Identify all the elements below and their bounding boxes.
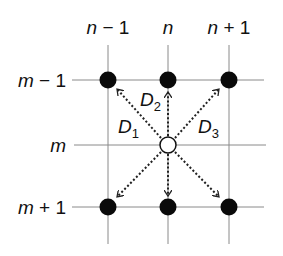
node-filled bbox=[100, 72, 117, 89]
row-label-m-minus-1: m − 1 bbox=[18, 70, 66, 91]
arrow-down-left bbox=[117, 152, 161, 197]
col-label-n-plus-1: n + 1 bbox=[208, 17, 251, 38]
node-filled bbox=[160, 72, 177, 89]
arrow-down-right bbox=[175, 152, 219, 197]
node-filled bbox=[100, 199, 117, 216]
col-label-n: n bbox=[163, 17, 174, 38]
center-node-open bbox=[160, 137, 176, 153]
label-d3: D3 bbox=[198, 116, 219, 141]
col-label-n-minus-1: n − 1 bbox=[87, 17, 130, 38]
row-label-m-plus-1: m + 1 bbox=[18, 197, 66, 218]
node-filled bbox=[221, 72, 238, 89]
label-d1: D1 bbox=[118, 116, 139, 141]
diagram-svg: n − 1 n n + 1 m − 1 m m + 1 D1 D2 D3 bbox=[0, 0, 283, 256]
row-label-m: m bbox=[50, 135, 66, 156]
node-filled bbox=[160, 199, 177, 216]
node-filled bbox=[221, 199, 238, 216]
neighborhood-diagram: n − 1 n n + 1 m − 1 m m + 1 D1 D2 D3 bbox=[0, 0, 283, 256]
label-d2: D2 bbox=[140, 89, 161, 114]
